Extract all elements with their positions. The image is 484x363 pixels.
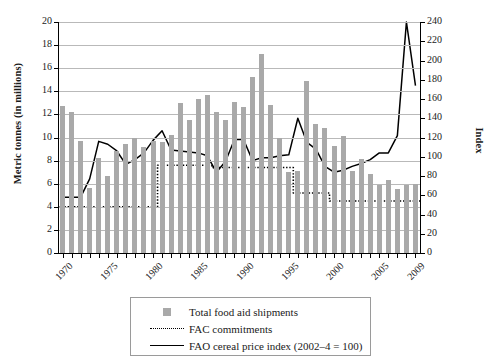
x-axis-tickmark (325, 254, 326, 258)
bar (78, 141, 83, 253)
bar (341, 136, 346, 253)
y-axis-left-tick-label: 16 (12, 61, 52, 72)
y-axis-left-tick-label: 6 (12, 177, 52, 188)
legend-dotted-line-icon (145, 328, 189, 329)
x-axis-tickmark (171, 254, 172, 258)
y-axis-right-tickmark (421, 80, 425, 81)
bar (359, 159, 364, 253)
x-axis-tickmark (352, 254, 353, 258)
x-axis-tickmark (189, 254, 190, 258)
chart-figure: Metric tonnes (in millions) Index Total … (0, 0, 484, 363)
y-axis-left-tickmark (54, 230, 58, 231)
x-axis-tickmark (225, 254, 226, 258)
bar (187, 120, 192, 253)
y-axis-right-tick-label: 180 (427, 73, 461, 84)
bar (395, 189, 400, 253)
chart-legend: Total food aid shipments FAC commitments… (130, 297, 371, 356)
x-axis-tickmark (72, 254, 73, 258)
y-axis-left-tick-label: 4 (12, 200, 52, 211)
legend-item-fac: FAC commitments (131, 320, 370, 337)
y-axis-left-tickmark (54, 114, 58, 115)
gridline (58, 161, 420, 162)
bar (123, 144, 128, 253)
bar (132, 138, 137, 254)
bar (96, 158, 101, 253)
legend-label-bars: Total food aid shipments (189, 306, 298, 318)
x-axis-tickmark (370, 254, 371, 258)
bar (259, 54, 264, 253)
bar (241, 107, 246, 253)
x-axis-tickmark (244, 254, 245, 258)
bar (205, 95, 210, 253)
bar (178, 103, 183, 253)
bar (60, 106, 65, 253)
x-axis-tickmark (388, 254, 389, 258)
y-axis-right-tickmark (421, 234, 425, 235)
bar (232, 102, 237, 253)
y-axis-right-tickmark (421, 215, 425, 216)
y-axis-right-tickmark (421, 61, 425, 62)
bar (377, 185, 382, 253)
y-axis-right-tickmark (421, 41, 425, 42)
x-axis-tickmark (262, 254, 263, 258)
bar (404, 185, 409, 253)
y-axis-right-tick-label: 240 (427, 15, 461, 26)
bar (169, 135, 174, 253)
x-axis-tickmark (198, 254, 199, 258)
y-axis-right-tick-label: 220 (427, 34, 461, 45)
y-axis-left-tickmark (54, 91, 58, 92)
x-axis-tickmark (63, 254, 64, 258)
y-axis-left-tick-label: 18 (12, 38, 52, 49)
gridline (58, 184, 420, 185)
y-axis-left-tick-label: 12 (12, 107, 52, 118)
y-axis-left-tick-label: 8 (12, 154, 52, 165)
bar (413, 184, 418, 253)
y-axis-left-tickmark (54, 22, 58, 23)
x-axis-tickmark (234, 254, 235, 258)
fac-commitments-line (58, 165, 420, 207)
y-axis-right-tick-label: 140 (427, 111, 461, 122)
y-axis-left-line (58, 22, 59, 254)
x-axis-tickmark (361, 254, 362, 258)
bar (250, 77, 255, 253)
x-axis-tickmark (307, 254, 308, 258)
gridline (58, 68, 420, 69)
y-axis-left-tickmark (54, 207, 58, 208)
gridline (58, 45, 420, 46)
y-axis-right-tickmark (421, 157, 425, 158)
y-axis-right-tickmark (421, 118, 425, 119)
y-axis-right-tickmark (421, 176, 425, 177)
bar (69, 112, 74, 253)
y-axis-right-tick-label: 20 (427, 227, 461, 238)
y-axis-right-tick-label: 120 (427, 131, 461, 142)
legend-item-bars: Total food aid shipments (131, 303, 370, 320)
x-axis-tickmark (117, 254, 118, 258)
x-axis-tickmark (379, 254, 380, 258)
x-axis-tickmark (316, 254, 317, 258)
bar (368, 174, 373, 253)
x-axis-tickmark (343, 254, 344, 258)
x-axis-tickmark (253, 254, 254, 258)
gridline (58, 207, 420, 208)
x-axis-tickmark (415, 254, 416, 258)
y-axis-right-tick-label: 80 (427, 169, 461, 180)
x-axis-tickmark (135, 254, 136, 258)
y-axis-right-tickmark (421, 253, 425, 254)
x-axis-tickmark (289, 254, 290, 258)
bar (322, 128, 327, 253)
y-axis-left-tickmark (54, 253, 58, 254)
y-axis-left-tick-label: 0 (12, 246, 52, 257)
gridline (58, 138, 420, 139)
gridline (58, 114, 420, 115)
bar (304, 81, 309, 253)
y-axis-right-tickmark (421, 22, 425, 23)
y-axis-right-tickmark (421, 99, 425, 100)
x-axis-tickmark (144, 254, 145, 258)
y-axis-right-tick-label: 0 (427, 246, 461, 257)
y-axis-left-tick-label: 10 (12, 131, 52, 142)
y-axis-right-tick-label: 60 (427, 188, 461, 199)
bar (223, 120, 228, 253)
x-axis-tickmark (298, 254, 299, 258)
x-axis-tickmark (108, 254, 109, 258)
legend-label-fac: FAC commitments (189, 323, 272, 335)
